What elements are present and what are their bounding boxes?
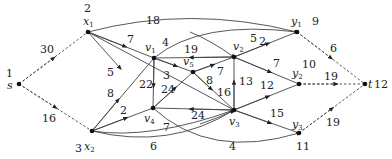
- weight-v2-v1: 19: [184, 43, 198, 56]
- node-v5: [191, 70, 196, 75]
- node-number-y1: 9: [312, 15, 319, 28]
- node-label-y1: y1: [290, 15, 302, 29]
- weight-x2-v1: 8: [107, 87, 114, 100]
- weight-v2-y1: 2: [259, 35, 266, 48]
- node-label-y2: y2: [291, 67, 303, 81]
- weight-v3-y3: 15: [270, 107, 284, 120]
- node-label-v2: v2: [233, 40, 244, 54]
- arrow-v1-v5: [154, 58, 176, 66]
- arrow-x1-v1: [88, 32, 125, 47]
- arrow-v2-y2: [234, 57, 270, 72]
- arrow-y1-t: [297, 32, 331, 58]
- arrow-v2-v1: [191, 57, 234, 58]
- node-label-s: s: [7, 79, 13, 92]
- weight-v2-y2: 7: [273, 57, 280, 70]
- weight-v3-y2: 12: [260, 79, 274, 92]
- weight-v5-v2: 7: [217, 65, 224, 78]
- node-label-y3: y3: [291, 118, 303, 132]
- weight-v1-v2: 8: [206, 74, 213, 87]
- node-number-x1: 2: [84, 2, 91, 15]
- arrow-x1-v3: [88, 32, 120, 68]
- node-label-x1: x1: [83, 15, 94, 29]
- weight-v4-y3: 4: [229, 140, 236, 153]
- weight-near-v2: 5: [250, 32, 257, 45]
- weight-v4-v5: 24: [161, 83, 175, 96]
- weight-x2-v4: 2: [120, 104, 127, 117]
- edge-s-x1: [19, 32, 88, 84]
- node-v3: [232, 108, 237, 113]
- arrow-v1-v4: [154, 58, 155, 86]
- arrow-s-x2: [19, 84, 56, 108]
- weight-x1-v1: 7: [127, 33, 134, 46]
- node-label-v1: v1: [145, 41, 156, 55]
- edge-v1-y1: [154, 29, 297, 58]
- weight-v4-v3: 7: [163, 121, 170, 134]
- arrow-s-x1: [19, 58, 54, 84]
- weight-v1-v5: 3: [163, 69, 170, 82]
- node-x1: [86, 30, 91, 35]
- node-x2: [90, 129, 95, 134]
- weight-v3-v4: 24: [191, 109, 205, 122]
- node-number-t: 12: [374, 78, 388, 91]
- weight-y2-t: 19: [324, 70, 338, 83]
- node-y1: [295, 30, 300, 35]
- weight-v3-v2: 13: [239, 75, 253, 88]
- node-y2: [297, 82, 302, 87]
- node-label-v4: v4: [144, 112, 155, 126]
- weight-v1-y1: 4: [162, 36, 169, 49]
- node-labels: s x1 x2 v1 v5 v2 v4 v3 y1 y2 y3 t: [7, 15, 373, 154]
- weight-x2-v3: 6: [150, 140, 157, 153]
- node-number-y2: 10: [302, 58, 316, 71]
- node-v4: [151, 106, 156, 111]
- weight-s-x2: 16: [42, 112, 56, 125]
- weight-x1-y1: 18: [146, 14, 160, 27]
- node-v2: [232, 55, 237, 60]
- node-s: [17, 82, 22, 87]
- weight-x1-v3: 5: [107, 66, 114, 79]
- edge-x1-y1: [88, 19, 297, 33]
- weight-v1-v4: 22: [139, 78, 153, 91]
- weight-s-x1: 30: [40, 43, 54, 56]
- arrow-v3-y2: [234, 97, 268, 111]
- node-number-y3: 11: [296, 140, 310, 153]
- weight-y3-t: 19: [326, 116, 340, 129]
- node-t: [363, 82, 368, 87]
- weight-v5-v3: 16: [217, 86, 231, 99]
- arrow-v5-v2: [193, 65, 213, 72]
- node-number-x2: 3: [75, 142, 82, 155]
- weight-y1-t: 6: [330, 42, 337, 55]
- network-diagram: 1 2 3 9 10 11 12 s x1 x2 v1 v5 v2 v4 v3 …: [0, 0, 392, 159]
- node-label-v3: v3: [229, 115, 240, 129]
- network-svg: 1 2 3 9 10 11 12 s x1 x2 v1 v5 v2 v4 v3 …: [0, 0, 392, 159]
- node-label-x2: x2: [84, 140, 95, 154]
- node-label-t: t: [368, 78, 373, 91]
- node-v1: [152, 56, 157, 61]
